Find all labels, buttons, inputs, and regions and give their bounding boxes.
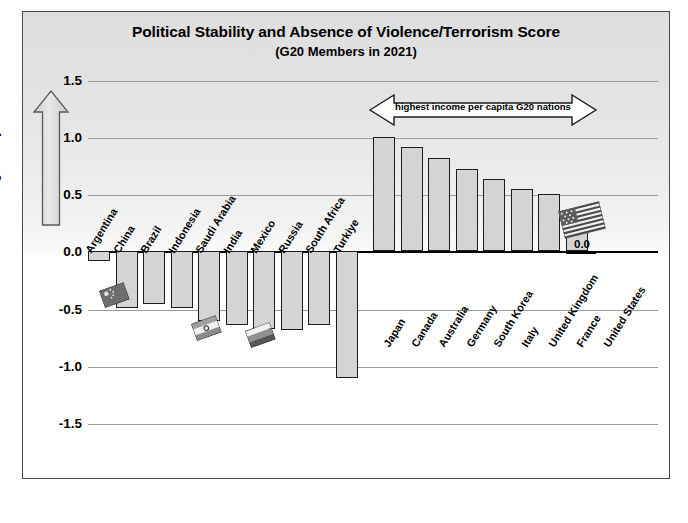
bar-australia: [428, 158, 450, 251]
y-tick-label: 1.0: [36, 130, 82, 145]
income-bracket-label: highest income per capita G20 nations: [368, 101, 598, 112]
y-tick-label: -1.0: [36, 359, 82, 374]
gridline: [88, 367, 658, 368]
y-tick-label: -0.5: [36, 302, 82, 317]
category-label: Russia: [275, 219, 304, 255]
category-label: France: [573, 313, 602, 349]
chart-page: Political Stability and Absence of Viole…: [0, 0, 688, 523]
bar-japan: [373, 137, 395, 252]
bar-brazil: [143, 251, 165, 304]
y-tick-label: -1.5: [36, 416, 82, 431]
bar-russia: [281, 251, 303, 330]
bar-south-korea: [483, 179, 505, 251]
y-tick-label: 0.0: [36, 244, 82, 259]
y-axis-ticks: 1.5 1.0 0.5 0.0 -0.5 -1.0 -1.5: [34, 81, 82, 425]
bar-germany: [456, 169, 478, 251]
category-label: Italy: [518, 324, 540, 349]
bar-south-africa: [308, 251, 330, 325]
bar-italy: [511, 189, 533, 251]
bar-saudi-arabia: [198, 251, 220, 321]
increasing-stability-label: Increasing Stability: [0, 87, 1, 227]
us-baseline-tick: [566, 251, 596, 254]
bar-india: [226, 251, 248, 325]
y-tick-label: 1.5: [36, 73, 82, 88]
category-label: Canada: [408, 310, 439, 349]
bar-indonesia: [171, 251, 193, 308]
category-label: United States: [601, 284, 648, 349]
y-tick-label: 0.5: [36, 187, 82, 202]
bar-canada: [401, 147, 423, 251]
gridline: [88, 424, 658, 425]
category-label: Turkiye: [330, 217, 360, 255]
category-label: Japan: [381, 316, 408, 349]
bar-turkiye: [336, 251, 358, 378]
gridline: [88, 81, 658, 82]
bar-mexico: [253, 251, 275, 329]
us-value-label: 0.0: [553, 238, 611, 250]
category-label: Mexico: [248, 218, 278, 255]
